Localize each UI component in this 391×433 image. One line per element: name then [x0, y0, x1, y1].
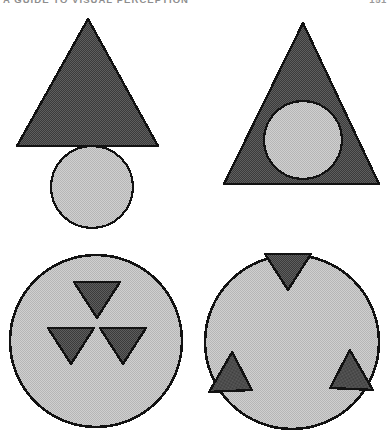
- panel-bottom-right: [205, 254, 379, 429]
- circle-light-top-left: [51, 146, 133, 228]
- triangle-dark-top-left: [17, 19, 158, 146]
- panel-bottom-left: [10, 255, 182, 427]
- panel-top-right: [224, 23, 379, 184]
- panel-top-left: [17, 19, 158, 228]
- figure-plate: [0, 0, 391, 433]
- circle-light-bottom-left: [10, 255, 182, 427]
- circle-light-inscribed-top-right: [264, 101, 342, 179]
